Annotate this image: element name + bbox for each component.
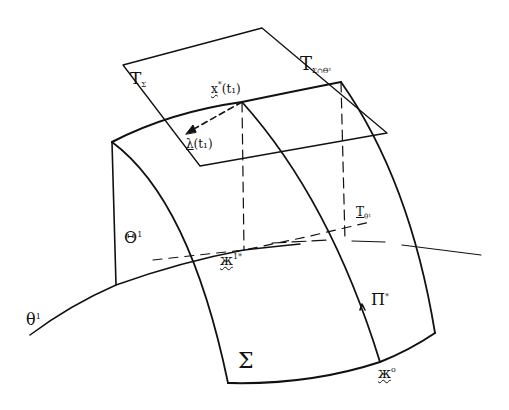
tangent-plane-sigma <box>123 28 387 166</box>
label-curve-pi-star: Π* <box>371 292 389 308</box>
label-tangent-plane-intersection: TΣ∩Θ¹ <box>300 55 331 73</box>
label-tangent-plane-theta: Tθ¹ <box>356 206 371 218</box>
diagram-canvas <box>0 0 509 410</box>
label-point-x-1-star: ж1* <box>220 253 242 267</box>
label-vector-lambda: λ(t₁) <box>186 138 213 150</box>
label-surface-sigma: Σ <box>238 350 254 372</box>
dashed-theta-trace <box>153 222 370 260</box>
label-point-x-zero: жo <box>378 366 396 380</box>
dashed-vertical-right <box>341 82 345 241</box>
label-tangent-plane-sigma: TΣ <box>130 70 146 87</box>
lambda-arrowhead-icon <box>186 125 196 134</box>
curve-theta-lower <box>30 250 244 335</box>
surface-left-edge <box>112 142 228 383</box>
theta-capital-left-edge <box>112 142 116 285</box>
surface-bottom-edge <box>228 333 435 383</box>
dashed-vertical-x-star <box>242 102 244 250</box>
label-surface-theta-capital: Θ1 <box>124 230 142 246</box>
label-curve-theta-lower: θ1 <box>26 312 41 328</box>
curve-pi-star <box>242 102 380 362</box>
label-point-x-star: x*(t₁) <box>211 83 241 95</box>
